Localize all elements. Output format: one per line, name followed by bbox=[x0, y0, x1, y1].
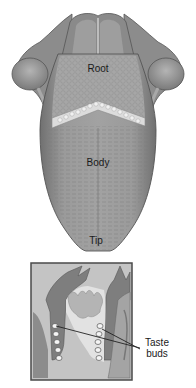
label-taste-buds: Taste buds bbox=[140, 337, 174, 359]
epiglottis bbox=[62, 14, 134, 58]
taste-bud-inset bbox=[31, 263, 140, 380]
tongue bbox=[40, 54, 156, 251]
label-taste-buds-line2: buds bbox=[140, 348, 174, 359]
label-taste-buds-line1: Taste bbox=[140, 337, 174, 348]
tongue-illustration bbox=[0, 0, 196, 388]
label-tip: Tip bbox=[89, 236, 103, 246]
label-root: Root bbox=[87, 64, 108, 74]
label-body: Body bbox=[87, 158, 110, 168]
tongue-anatomy-figure: Root Body Tip Taste buds bbox=[0, 0, 196, 388]
